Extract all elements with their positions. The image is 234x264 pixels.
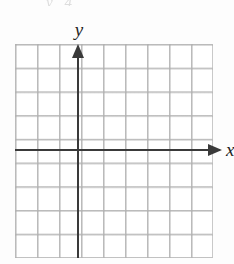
x-axis-line xyxy=(15,149,214,151)
x-axis-label: x xyxy=(226,140,234,159)
scan-artifact-text: y 4 xyxy=(46,0,120,6)
coordinate-plane-figure: y 4 y x xyxy=(0,0,234,264)
y-axis-arrow-icon xyxy=(72,44,84,58)
y-axis-line xyxy=(77,52,79,258)
y-axis-label: y xyxy=(70,20,88,39)
x-axis-arrow-icon xyxy=(208,144,222,156)
